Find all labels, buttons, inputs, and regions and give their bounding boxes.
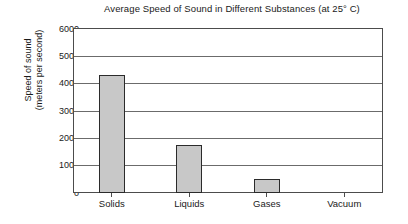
x-label-vacuum: Vacuum <box>306 198 383 210</box>
x-label-gases: Gases <box>228 198 305 210</box>
x-axis-ticks <box>73 193 383 197</box>
bar-slot-liquids <box>151 28 228 193</box>
chart-title: Average Speed of Sound in Different Subs… <box>60 3 404 14</box>
x-tick-slot-solids <box>73 193 150 197</box>
bar-gases <box>254 179 280 193</box>
x-label-liquids: Liquids <box>151 198 228 210</box>
bar-slot-solids <box>73 28 150 193</box>
y-axis-title-line-2: (meters per second) <box>34 30 46 111</box>
x-axis-labels: Solids Liquids Gases Vacuum <box>73 198 383 210</box>
x-label-solids: Solids <box>73 198 150 210</box>
bar-solids <box>99 75 125 193</box>
x-tick-gases <box>266 193 267 197</box>
x-tick-slot-vacuum <box>306 193 383 197</box>
bar-chart-figure: Average Speed of Sound in Different Subs… <box>0 0 408 224</box>
bar-liquids <box>176 145 202 193</box>
x-tick-liquids <box>189 193 190 197</box>
bar-slot-gases <box>228 28 305 193</box>
x-tick-vacuum <box>344 193 345 197</box>
x-tick-slot-gases <box>228 193 305 197</box>
bar-slot-vacuum <box>306 28 383 193</box>
y-axis-title-line-1: Speed of sound <box>23 38 35 101</box>
x-tick-solids <box>111 193 112 197</box>
bars-layer <box>73 28 383 193</box>
x-tick-slot-liquids <box>151 193 228 197</box>
